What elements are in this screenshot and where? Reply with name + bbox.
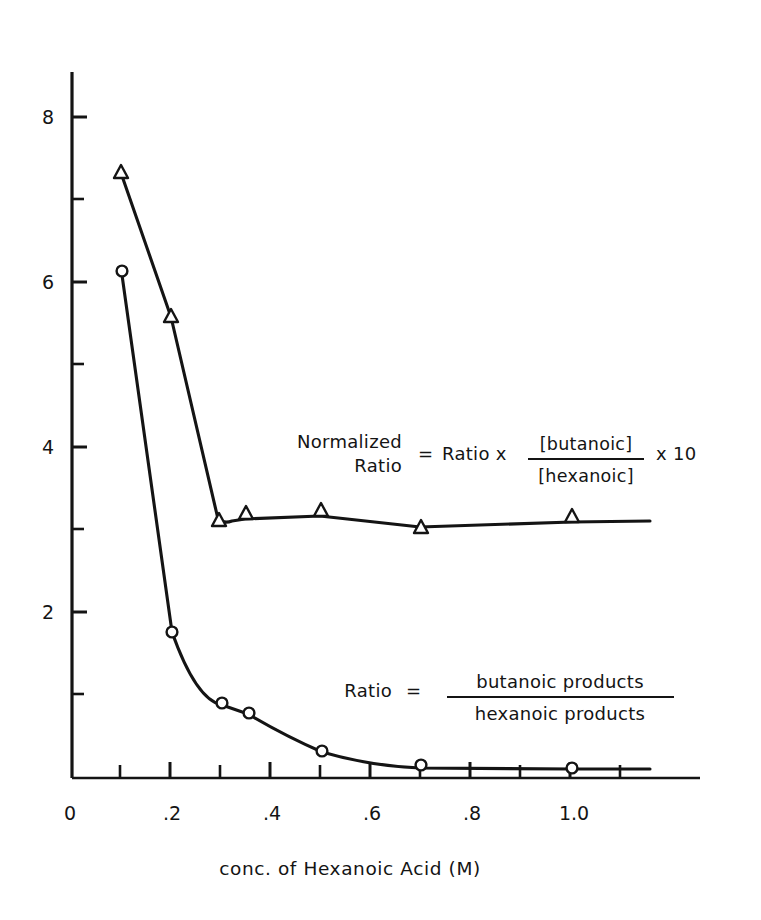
data-point-triangle [114, 165, 128, 178]
data-point-triangle [565, 509, 579, 522]
y-tick-label: 4 [42, 436, 54, 458]
data-point-triangle [239, 506, 253, 519]
y-axis-ticks [72, 117, 87, 694]
annotation-lhs-line2: Ratio [354, 455, 402, 476]
x-tick-label: 1.0 [559, 802, 589, 824]
annotation-fraction-denominator: hexanoic products [475, 703, 646, 724]
annotation-fraction-numerator: [butanoic] [540, 434, 633, 454]
data-point-circle [217, 698, 228, 709]
data-point-circle [117, 266, 128, 277]
x-tick-label: .6 [363, 802, 381, 824]
annotation-fraction-numerator: butanoic products [476, 671, 644, 692]
annotation-fraction-denominator: [hexanoic] [538, 466, 634, 486]
annotation-ratio-formula: Ratio = butanoic products hexanoic produ… [344, 671, 674, 724]
y-axis-tick-labels: 8 6 4 2 [42, 106, 54, 623]
data-point-triangle [314, 503, 328, 516]
x-tick-label: .8 [463, 802, 481, 824]
chart-figure: 8 6 4 2 0 .2 .4 .6 .8 1 [0, 0, 761, 920]
annotation-lhs-line1: Normalized [297, 431, 402, 452]
x-tick-label: 0 [64, 802, 76, 824]
data-point-triangle [164, 309, 178, 322]
x-tick-label: .4 [263, 802, 281, 824]
data-point-circle [317, 746, 328, 757]
annotation-rhs-suffix: x 10 [656, 443, 696, 464]
data-point-circle [244, 708, 255, 719]
annotation-normalized-ratio-formula: Normalized Ratio = Ratio x [butanoic] [h… [297, 431, 697, 486]
y-tick-label: 8 [42, 106, 54, 128]
annotation-equals-sign: = [406, 680, 421, 701]
annotation-lhs: Ratio [344, 680, 392, 701]
annotation-rhs-prefix: Ratio x [442, 443, 507, 464]
data-point-circle [416, 760, 427, 771]
chart-canvas: 8 6 4 2 0 .2 .4 .6 .8 1 [0, 0, 761, 920]
x-tick-label: .2 [163, 802, 181, 824]
annotation-equals-sign: = [418, 443, 433, 464]
y-tick-label: 6 [42, 271, 54, 293]
markers-normalized-ratio [114, 165, 579, 533]
data-point-circle [167, 627, 178, 638]
y-tick-label: 2 [42, 601, 54, 623]
x-axis-tick-labels: 0 .2 .4 .6 .8 1.0 [64, 802, 589, 824]
x-axis-title: conc. of Hexanoic Acid (M) [219, 858, 481, 879]
data-point-triangle [212, 513, 226, 526]
data-point-circle [567, 763, 578, 774]
